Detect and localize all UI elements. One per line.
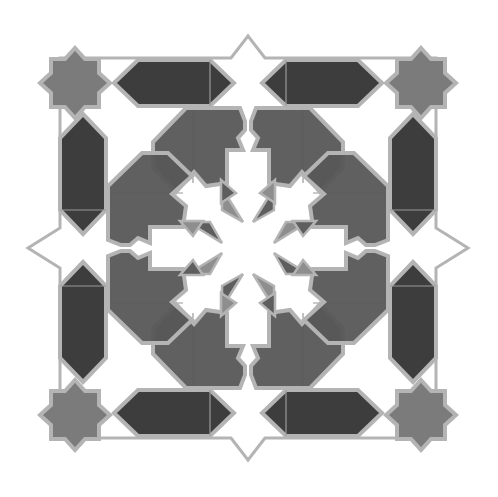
corner-star-top-left (40, 48, 110, 118)
hexagon-bottom-right (262, 390, 382, 436)
hexagon-top-left (114, 60, 234, 106)
corner-star-bottom-left (40, 380, 110, 450)
tile-pattern-svg (0, 0, 498, 497)
hexagon-right-bottom (390, 262, 436, 382)
pattern-root (28, 36, 468, 460)
hexagon-right-top (390, 114, 436, 234)
hexagon-left-top (60, 114, 106, 234)
corner-star-top-right (386, 48, 456, 118)
pattern-canvas: Geometric eight-fold star tile pattern (0, 0, 498, 497)
hexagon-top-right (262, 60, 382, 106)
hexagon-left-bottom (60, 262, 106, 382)
corner-star-bottom-right (386, 380, 456, 450)
hexagon-bottom-left (114, 390, 234, 436)
